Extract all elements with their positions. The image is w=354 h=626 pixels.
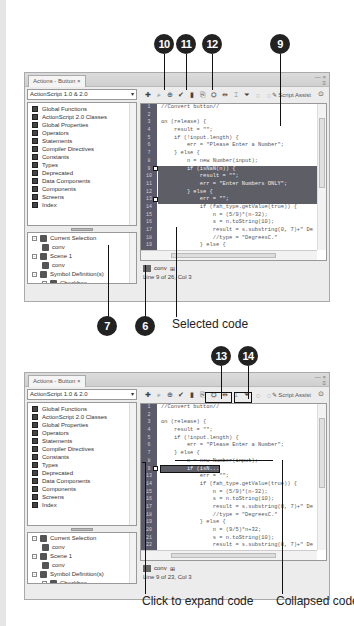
- code-line[interactable]: } else {: [158, 150, 317, 158]
- scroll-thumb[interactable]: [171, 253, 276, 258]
- expand-all-icon[interactable]: ⏷: [243, 91, 251, 100]
- help-icon[interactable]: ⊙: [318, 90, 324, 98]
- toolbox-item[interactable]: ActionScript 2.0 Classes: [28, 413, 136, 421]
- auto-format-icon[interactable]: ▮: [188, 391, 196, 400]
- navigator-scrollbar[interactable]: [129, 233, 136, 283]
- code-line[interactable]: //Convert button//: [158, 404, 317, 412]
- code-line[interactable]: result = s.substring(0, 7)+" De: [158, 542, 317, 550]
- navigator-item[interactable]: −Current Selection: [32, 534, 136, 543]
- code-line[interactable]: [158, 112, 317, 120]
- toolbox-item[interactable]: Deprecated: [28, 169, 136, 177]
- collapse-icon[interactable]: −: [32, 254, 37, 259]
- toolbox-item[interactable]: Global Properties: [28, 121, 136, 129]
- code-line[interactable]: if (!input.length) {: [158, 135, 317, 143]
- editor-horizontal-scrollbar[interactable]: [141, 250, 317, 260]
- fold-marker-end[interactable]: [153, 197, 158, 202]
- toolbox-item[interactable]: Components: [28, 185, 136, 193]
- script-tab[interactable]: conv⊞: [140, 563, 327, 573]
- code-editor[interactable]: 12345678913141516171819202122 //Convert …: [140, 403, 327, 561]
- code-area[interactable]: //Convert button//on (release) { result …: [158, 404, 317, 550]
- add-item-icon[interactable]: ✚: [144, 91, 152, 100]
- code-line[interactable]: result = s.substring(0, 7)+" De: [158, 227, 317, 235]
- code-line[interactable]: n = new Number(input);: [158, 458, 317, 466]
- check-syntax-icon[interactable]: ✔: [177, 91, 185, 100]
- toolbox-scrollbar[interactable]: [129, 403, 136, 525]
- pin-icon[interactable]: ⊞: [170, 265, 175, 272]
- add-item-icon[interactable]: ✚: [144, 391, 152, 400]
- find-icon[interactable]: ⌕: [155, 391, 163, 400]
- editor-vertical-scrollbar[interactable]: [317, 404, 326, 550]
- code-line[interactable]: if (fah_type.getValue(true)) {: [158, 204, 317, 212]
- window-controls[interactable]: — ×≡: [315, 374, 326, 386]
- code-line[interactable]: } else {: [158, 519, 317, 527]
- help-icon[interactable]: ⊙: [318, 390, 324, 398]
- expand-icon[interactable]: +: [42, 581, 47, 584]
- toolbox-item[interactable]: Operators: [28, 129, 136, 137]
- collapse-icon[interactable]: −: [32, 236, 37, 241]
- code-line[interactable]: err = "";: [158, 473, 317, 481]
- code-line[interactable]: //Convert button//: [158, 104, 317, 112]
- actions-tab[interactable]: Actions - Button ×: [28, 75, 86, 87]
- collapse-selection-icon[interactable]: ⌶: [232, 91, 240, 100]
- navigator-item[interactable]: −Current Selection: [32, 234, 136, 243]
- toolbox-item[interactable]: Components: [28, 485, 136, 493]
- find-icon[interactable]: ⌕: [155, 91, 163, 100]
- code-line[interactable]: err = "Please Enter a Number";: [158, 442, 317, 450]
- expand-code-marker[interactable]: [153, 466, 158, 471]
- code-line[interactable]: s = n.toString(10);: [158, 535, 317, 543]
- window-controls[interactable]: — ×≡: [315, 74, 326, 86]
- code-line[interactable]: err = "Please Enter a Number";: [158, 142, 317, 150]
- expand-icon[interactable]: +: [42, 281, 47, 284]
- toolbox-item[interactable]: Operators: [28, 429, 136, 437]
- script-assist-button[interactable]: ✎ Script Assist: [272, 390, 311, 400]
- toolbox-item[interactable]: ActionScript 2.0 Classes: [28, 113, 136, 121]
- navigator-scrollbar[interactable]: [129, 533, 136, 583]
- scroll-thumb[interactable]: [319, 118, 325, 188]
- code-hint-icon[interactable]: ⎘: [199, 91, 207, 100]
- apply-block-comment-icon[interactable]: ◌: [254, 391, 262, 400]
- collapse-icon[interactable]: −: [32, 272, 37, 277]
- toolbox-item[interactable]: Index: [28, 501, 136, 509]
- toolbox-item[interactable]: Data Components: [28, 477, 136, 485]
- editor-vertical-scrollbar[interactable]: [317, 104, 326, 250]
- code-area[interactable]: //Convert button//on (release) { result …: [158, 104, 317, 250]
- code-line[interactable]: on (release) {: [158, 419, 317, 427]
- code-line[interactable]: } else {: [158, 242, 317, 250]
- code-line[interactable]: n = (5/9)*(n-32);: [158, 212, 317, 220]
- code-line[interactable]: //type = "DegreesC.": [158, 235, 317, 243]
- code-line[interactable]: err = "Enter Numbers ONLY";: [158, 181, 317, 189]
- fold-marker-start[interactable]: [153, 166, 158, 171]
- toolbox-item[interactable]: Screens: [28, 193, 136, 201]
- editor-horizontal-scrollbar[interactable]: [141, 550, 317, 560]
- language-dropdown[interactable]: ActionScript 1.0 & 2.0 ▾: [27, 389, 137, 400]
- collapse-between-braces-icon[interactable]: ⇹: [221, 91, 229, 100]
- collapse-icon[interactable]: −: [32, 554, 37, 559]
- code-line[interactable]: result = "";: [158, 127, 317, 135]
- toolbox-item[interactable]: Deprecated: [28, 469, 136, 477]
- toolbox-item[interactable]: Statements: [28, 437, 136, 445]
- toolbox-item[interactable]: Statements: [28, 137, 136, 145]
- navigator-item[interactable]: +Checkbox: [32, 579, 136, 584]
- code-line[interactable]: result = "";: [158, 427, 317, 435]
- apply-block-comment-icon[interactable]: ◌: [254, 91, 262, 100]
- code-line[interactable]: [158, 412, 317, 420]
- code-line[interactable]: if (isN...: [158, 466, 317, 474]
- navigator-item[interactable]: −Symbol Definition(s): [32, 570, 136, 579]
- code-line[interactable]: if (isNaN(n)) {: [158, 166, 317, 174]
- code-line[interactable]: s = n.toString(10);: [158, 219, 317, 227]
- code-line[interactable]: on (release) {: [158, 119, 317, 127]
- target-path-icon[interactable]: ⊕: [166, 391, 174, 400]
- navigator-item[interactable]: conv: [32, 261, 136, 270]
- toolbox-item[interactable]: Index: [28, 201, 136, 209]
- toolbox-item[interactable]: Types: [28, 461, 136, 469]
- toolbox-item[interactable]: Constants: [28, 153, 136, 161]
- navigator-item[interactable]: +Checkbox: [32, 279, 136, 284]
- actions-tab[interactable]: Actions - Button ×: [28, 375, 86, 387]
- code-editor[interactable]: 12345678910111213141516171819 //Convert …: [140, 103, 327, 261]
- script-tab[interactable]: conv⊞: [140, 263, 327, 273]
- auto-format-icon[interactable]: ▮: [188, 91, 196, 100]
- toolbox-item[interactable]: Global Properties: [28, 421, 136, 429]
- code-line[interactable]: s = n.toString(10);: [158, 496, 317, 504]
- code-line[interactable]: } else {: [158, 450, 317, 458]
- code-line[interactable]: n = new Number(input);: [158, 158, 317, 166]
